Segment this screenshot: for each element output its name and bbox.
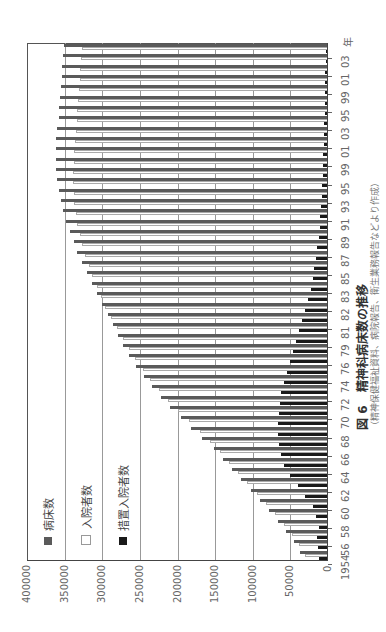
bar-inpatients (111, 316, 328, 319)
value-tick-label: 100000 (247, 565, 258, 603)
bar-compulsory (298, 484, 328, 487)
bar-inpatients (74, 150, 328, 153)
value-tick-label: 150000 (209, 565, 220, 603)
bar-inpatients (80, 68, 328, 71)
bar-inpatients (89, 264, 328, 267)
bar-compulsory (308, 298, 328, 301)
bar-inpatients (82, 243, 328, 246)
value-tick-label: 50000 (284, 565, 295, 597)
category-tick-mark (328, 112, 332, 113)
category-tick-label: 76 (340, 363, 351, 376)
bar-inpatients (76, 212, 328, 215)
category-tick-mark (328, 311, 332, 312)
bar-compulsory (281, 453, 328, 456)
category-tick-label: 95 (340, 182, 351, 195)
value-tick-label: 400000 (21, 565, 32, 603)
bar-inpatients (80, 233, 328, 236)
chart-source-note: （精神保健福祉資料、病院報告、衛生業務報告などより作成） (368, 178, 381, 430)
category-tick-mark (328, 329, 332, 330)
bar-compulsory (278, 422, 328, 425)
bar-inpatients (117, 326, 328, 329)
value-tick-label: 200000 (172, 565, 183, 603)
category-tick-label: 93 (340, 200, 351, 213)
bar-inpatients (78, 99, 328, 102)
category-tick-mark (328, 130, 332, 131)
category-tick-label: 1954 (340, 555, 351, 580)
bar-compulsory (302, 319, 328, 322)
category-tick-mark (328, 546, 332, 547)
category-tick-label: 74 (340, 381, 351, 394)
bar-compulsory (305, 309, 328, 312)
category-tick-mark (328, 365, 332, 366)
category-tick-label: 85 (340, 272, 351, 285)
bar-inpatients (105, 306, 328, 309)
bar-inpatients (74, 202, 328, 205)
category-tick-label: 66 (340, 453, 351, 466)
bar-inpatients (80, 78, 328, 81)
bar-compulsory (290, 474, 328, 477)
category-tick-mark (328, 510, 332, 511)
bar-compulsory (279, 412, 328, 415)
bar-inpatients (74, 161, 328, 164)
bar-compulsory (305, 495, 328, 498)
bar-inpatients (75, 140, 328, 143)
legend-label: 入院者数 (78, 485, 94, 529)
category-tick-mark (328, 401, 332, 402)
bar-inpatients (73, 171, 328, 174)
category-tick-mark (328, 58, 332, 59)
bar-inpatients (81, 57, 328, 60)
category-tick-label: 72 (340, 399, 351, 412)
category-tick-mark (328, 474, 332, 475)
category-tick-label: 99 (340, 91, 351, 104)
category-tick-label: 01 (340, 73, 351, 86)
category-tick-label: 03 (340, 128, 351, 141)
legend-item-beds: 病床数 (40, 498, 56, 545)
category-tick-label: 87 (340, 254, 351, 267)
bar-inpatients (77, 223, 328, 226)
category-tick-mark (328, 275, 332, 276)
category-tick-label: 58 (340, 525, 351, 538)
bar-compulsory (284, 464, 328, 467)
bar-inpatients (85, 254, 328, 257)
category-tick-label: 60 (340, 507, 351, 520)
category-tick-label: 68 (340, 435, 351, 448)
category-tick-label: 81 (340, 326, 351, 339)
bar-compulsory (281, 391, 328, 394)
category-tick-mark (328, 438, 332, 439)
bar-inpatients (92, 274, 328, 277)
bar-compulsory (290, 360, 328, 363)
category-tick-mark (328, 148, 332, 149)
category-tick-mark (328, 221, 332, 222)
bar-compulsory (313, 505, 328, 508)
bar-compulsory (313, 277, 328, 280)
category-tick-label: 64 (340, 471, 351, 484)
legend-swatch-inpatients (81, 535, 91, 545)
category-tick-label: 79 (340, 344, 351, 357)
legend-label: 病床数 (40, 498, 56, 531)
category-tick-mark (328, 456, 332, 457)
category-tick-mark (328, 166, 332, 167)
legend-label: 措置入院者数 (115, 465, 131, 531)
legend-swatch-compulsory (119, 537, 127, 545)
bar-compulsory (280, 402, 328, 405)
category-tick-mark (328, 94, 332, 95)
category-tick-mark (328, 257, 332, 258)
category-tick-mark (328, 239, 332, 240)
bar-inpatients (76, 130, 328, 133)
category-tick-mark (328, 564, 332, 565)
bar-compulsory (293, 350, 328, 353)
bar-compulsory (278, 433, 328, 436)
category-tick-label: 99 (340, 164, 351, 177)
bar-compulsory (299, 329, 328, 332)
category-tick-label: 91 (340, 218, 351, 231)
bar-compulsory (314, 267, 328, 270)
category-tick-mark (328, 492, 332, 493)
bar-inpatients (74, 192, 328, 195)
category-tick-mark (328, 347, 332, 348)
category-tick-label: 70 (340, 417, 351, 430)
category-tick-label: 95 (340, 110, 351, 123)
bar-inpatients (77, 109, 328, 112)
category-tick-label: 89 (340, 236, 351, 249)
category-tick-label: 83 (340, 290, 351, 303)
legend-item-inpatients: 入院者数 (78, 485, 94, 545)
